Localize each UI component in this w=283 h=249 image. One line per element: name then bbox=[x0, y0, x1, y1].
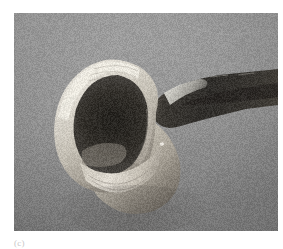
panel-label: (c) bbox=[14, 238, 25, 248]
figure-panel: (c) bbox=[0, 0, 283, 249]
figure-caption: (c) bbox=[14, 234, 278, 247]
photograph bbox=[14, 13, 278, 231]
micrograph-image bbox=[14, 13, 278, 231]
